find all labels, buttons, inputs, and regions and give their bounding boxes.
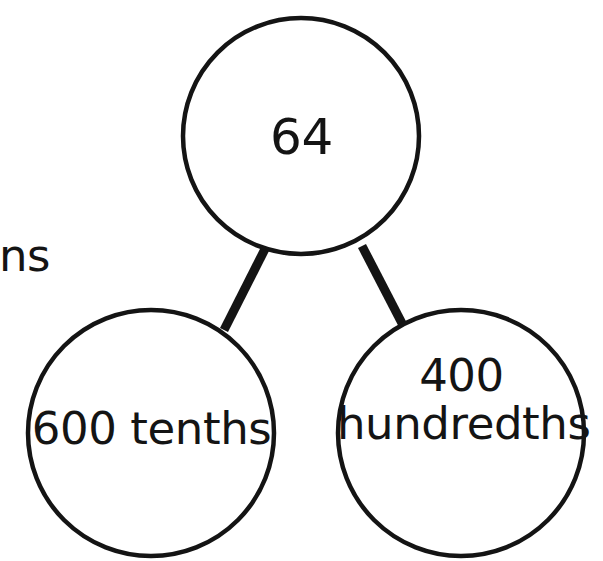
part-left-circle[interactable] — [28, 310, 274, 556]
bond-shapes-svg — [0, 0, 603, 561]
clipped-text-fragment: ns — [0, 229, 50, 282]
connector-total-to-right-part — [362, 246, 406, 331]
total-circle[interactable] — [183, 18, 419, 254]
connector-total-to-left-part — [224, 247, 266, 330]
part-right-circle[interactable] — [338, 310, 584, 556]
number-bond-diagram: 64 600 tenths 400hundredths ns — [0, 0, 603, 561]
